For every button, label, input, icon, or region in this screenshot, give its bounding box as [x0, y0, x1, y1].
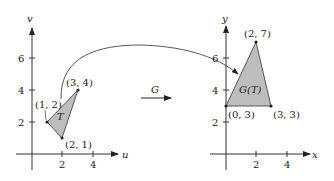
vertex-label-1-2: (1, 2) [35, 99, 62, 110]
u-tick-4: 4 [90, 159, 96, 170]
v-tick-4: 4 [18, 85, 24, 96]
u-tick-2: 2 [59, 159, 65, 170]
right-plot: x y 2 4 2 4 6 G(T) (2, 7) (0, 3) (3, 3) [210, 13, 318, 170]
vertex-label-3-4: (3, 4) [66, 77, 93, 88]
x-tick-2: 2 [253, 159, 259, 170]
x-axis-label: x [312, 149, 318, 160]
vertex-point [76, 88, 79, 91]
y-tick-2: 2 [212, 117, 218, 128]
v-tick-2: 2 [18, 117, 24, 128]
v-tick-6: 6 [18, 53, 24, 64]
vertex-label-3-3: (3, 3) [273, 109, 300, 120]
region-GT-label: G(T) [239, 84, 262, 95]
vertex-point [254, 40, 257, 43]
region-GT [226, 42, 271, 106]
vertex-label-0-3: (0, 3) [228, 109, 255, 120]
transformation-diagram: u v 2 4 2 4 6 T (1, 2) (3, 4) (2, 1) G x… [0, 0, 334, 181]
transform-label: G [151, 84, 159, 95]
y-tick-4: 4 [212, 85, 218, 96]
vertex-label-2-7: (2, 7) [244, 28, 271, 39]
vertex-point [60, 136, 63, 139]
vertex-label-2-1: (2, 1) [65, 139, 92, 150]
vertex-point [269, 104, 272, 107]
u-axis-label: u [122, 149, 128, 160]
left-plot: u v 2 4 2 4 6 T (1, 2) (3, 4) (2, 1) [16, 13, 128, 170]
y-tick-6: 6 [212, 53, 218, 64]
transform-arrow-G: G [141, 84, 171, 98]
v-axis-label: v [27, 13, 33, 24]
x-tick-4: 4 [284, 159, 290, 170]
y-axis-label: y [221, 13, 228, 24]
vertex-point [224, 104, 227, 107]
vertex-point [45, 120, 48, 123]
